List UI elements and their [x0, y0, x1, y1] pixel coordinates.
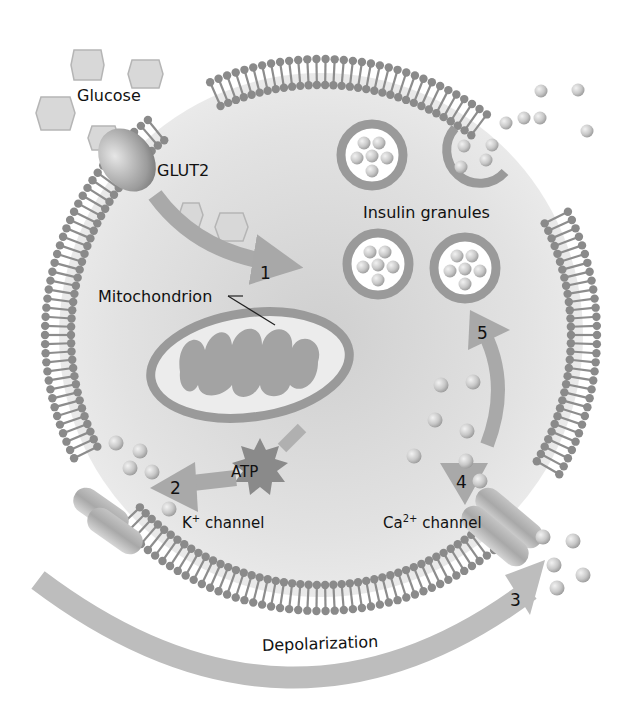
step-2-number: 2 — [170, 480, 181, 497]
glucose-hexagon-icon — [215, 213, 248, 241]
glut2-label: GLUT2 — [157, 163, 209, 179]
k-channel-label-sup: + — [192, 513, 200, 524]
atp-label: ATP — [231, 465, 258, 480]
step-5-number: 5 — [477, 325, 488, 342]
depolarization-arrow — [38, 580, 530, 678]
insulin-granules-label: Insulin granules — [363, 205, 490, 221]
ca-channel-label-sup: 2+ — [403, 513, 418, 524]
glucose-hexagon-icon — [36, 97, 75, 130]
mitochondrion-label: Mitochondrion — [98, 289, 212, 305]
ca-channel-label-prefix: Ca — [383, 514, 403, 532]
ca-channel-label-suffix: channel — [417, 514, 481, 532]
glucose-hexagon-icon — [128, 60, 163, 88]
k-channel-label: K+ channel — [182, 514, 264, 531]
glucose-hexagon-icon — [71, 50, 104, 80]
ca-channel-label: Ca2+ channel — [383, 514, 482, 531]
insulin-secretion-diagram: Glucose GLUT2 Mitochondrion Insulin gran… — [0, 0, 639, 715]
step-1-number: 1 — [260, 265, 271, 282]
k-channel-label-suffix: channel — [200, 514, 264, 532]
glucose-label: Glucose — [77, 88, 141, 104]
k-channel-label-prefix: K — [182, 514, 192, 532]
step-4-number: 4 — [456, 474, 467, 491]
step-3-number: 3 — [510, 592, 521, 609]
depolarization-label: Depolarization — [262, 634, 379, 654]
diagram-canvas — [0, 0, 639, 715]
